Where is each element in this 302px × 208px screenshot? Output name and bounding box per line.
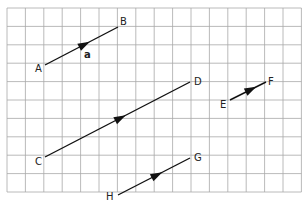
point-label-c: C [35, 157, 42, 167]
point-label-h: H [106, 192, 114, 202]
vector-arrows [45, 27, 266, 195]
vector-label-a: a [84, 50, 91, 60]
point-label-a: A [35, 64, 42, 74]
arrowhead-icon [150, 169, 164, 182]
vector-grid-diagram [0, 0, 302, 208]
point-label-b: B [120, 17, 127, 27]
point-label-e: E [220, 100, 226, 110]
point-label-f: F [268, 77, 274, 87]
point-label-d: D [194, 77, 202, 87]
point-label-g: G [194, 153, 202, 163]
